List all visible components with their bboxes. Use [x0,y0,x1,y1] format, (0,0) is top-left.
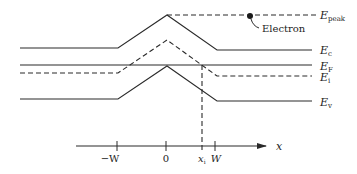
label-epeak: Epeak [319,9,346,23]
intrinsic-level-ei [20,40,312,76]
valence-band-ev [20,66,312,101]
band-diagram: Epeak Electron Ec EF Ei Ev −W 0 xi W x [0,0,357,174]
tick-label-minus-w: −W [101,153,120,164]
tick-label-w: W [211,153,222,164]
electron-dot [247,13,253,19]
label-ec: Ec [319,44,332,58]
label-electron: Electron [262,23,306,34]
tick-label-xi: xi [198,153,206,165]
axis-label-x: x [276,140,283,153]
tick-label-zero: 0 [163,153,169,164]
label-ev: Ev [319,96,332,110]
electron-pointer [251,19,259,28]
